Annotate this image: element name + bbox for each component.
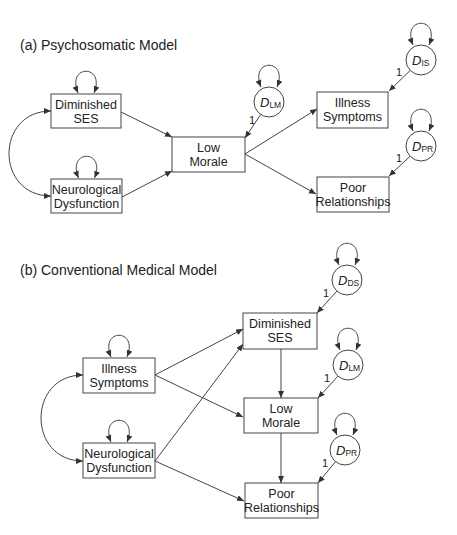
path-arrow (155, 461, 244, 501)
node-pr: PoorRelationships (244, 483, 319, 518)
node-label: Illness (335, 96, 370, 110)
path-coefficient: 1 (396, 152, 402, 164)
node-label: Low (197, 141, 221, 155)
path-arrow (155, 344, 243, 461)
path-arrow (245, 154, 316, 194)
disturbance-d_pr: DPR1 (318, 413, 360, 483)
path-coefficient: 1 (249, 114, 255, 126)
node-label: SES (73, 112, 98, 126)
node-lm: LowMorale (244, 398, 318, 433)
disturbance-d_pr: DPR1 (389, 109, 436, 176)
path-coefficient: 1 (322, 457, 328, 469)
self-loop-arrow (76, 156, 97, 178)
path-coefficient: 1 (396, 66, 402, 78)
node-label: Poor (340, 181, 366, 195)
self-loop-arrow (411, 23, 432, 45)
node-label: Low (270, 402, 294, 416)
panel-b-title: (b) Conventional Medical Model (20, 262, 217, 278)
path-arrow (245, 109, 317, 154)
self-loop-arrow (338, 328, 359, 350)
disturbance-d_is: DIS1 (389, 23, 436, 91)
node-lm: LowMorale (172, 137, 245, 172)
self-loop-arrow (337, 243, 358, 265)
node-label: Relationships (315, 195, 390, 209)
node-is: IllnessSymptoms (317, 92, 388, 128)
disturbance-d_lm: DLM1 (245, 65, 284, 138)
self-loop-arrow (76, 71, 97, 93)
panel-b: (b) Conventional Medical Model (20, 262, 217, 278)
node-label: Neurological (84, 447, 153, 461)
path-arrow (122, 171, 172, 197)
node-label: Symptoms (323, 110, 382, 124)
disturbance-d_ds: DDS1 (317, 243, 362, 313)
path-coefficient: 1 (324, 372, 330, 384)
node-label: Neurological (52, 183, 121, 197)
node-pr: PoorRelationships (315, 177, 390, 212)
panel-a-title: (a) Psychosomatic Model (20, 37, 177, 53)
self-loop-arrow (109, 335, 130, 357)
path-arrow (155, 375, 243, 417)
node-label: Symptoms (89, 376, 148, 390)
node-label: Illness (101, 362, 136, 376)
path-arrow (121, 112, 172, 137)
node-label: Poor (268, 487, 294, 501)
self-loop-arrow (109, 420, 130, 442)
node-dses: DiminishedSES (51, 71, 121, 128)
node-label: SES (267, 331, 292, 345)
node-label: Morale (189, 155, 227, 169)
panel-a: (a) Psychosomatic Model (20, 37, 177, 53)
self-loop-arrow (411, 109, 432, 131)
covariance-arrow (41, 375, 83, 461)
node-dses: DiminishedSES (243, 313, 317, 349)
panel-b-graph: IllnessSymptomsNeurologicalDysfunctionDi… (41, 243, 363, 518)
node-nd: NeurologicalDysfunction (83, 420, 155, 478)
self-loop-arrow (335, 413, 356, 435)
node-label: Dysfunction (54, 197, 119, 211)
node-label: Dysfunction (86, 461, 151, 475)
path-arrow (155, 329, 243, 375)
path-diagram: (a) Psychosomatic Model (b) Conventional… (0, 0, 457, 535)
path-coefficient: 1 (323, 287, 329, 299)
node-label: Morale (262, 416, 300, 430)
node-label: Relationships (244, 501, 319, 515)
node-label: Diminished (55, 98, 117, 112)
node-is: IllnessSymptoms (83, 335, 155, 393)
disturbance-d_lm: DLM1 (318, 328, 363, 398)
node-nd: NeurologicalDysfunction (51, 156, 122, 213)
self-loop-arrow (259, 65, 280, 87)
node-label: Diminished (249, 317, 311, 331)
covariance-arrow (9, 111, 51, 196)
